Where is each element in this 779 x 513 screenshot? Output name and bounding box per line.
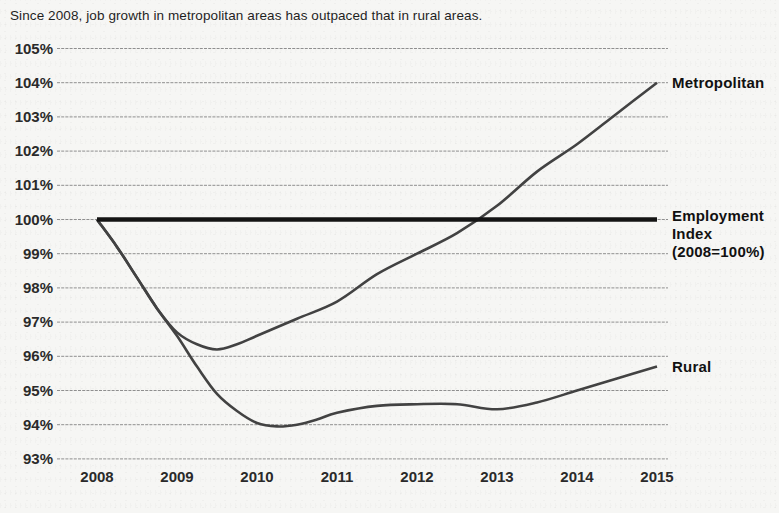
y-axis-tick-label: 102% [15,142,53,159]
series-label: Index [672,225,713,242]
y-axis-tick-label: 101% [15,176,53,193]
y-axis-tick-label: 100% [15,211,53,228]
series-label: Metropolitan [672,74,764,91]
y-axis-tick-label: 97% [23,313,53,330]
y-axis-tick-label: 105% [15,40,53,57]
y-axis-tick-label: 99% [23,245,53,262]
line-chart: 105%104%103%102%101%100%99%98%97%96%95%9… [0,0,779,513]
y-axis-tick-label: 103% [15,108,53,125]
x-axis-tick-label: 2014 [560,468,594,485]
y-axis-tick-label: 96% [23,347,53,364]
x-axis-tick-label: 2015 [640,468,673,485]
y-axis-tick-label: 98% [23,279,53,296]
series-label: Rural [672,358,711,375]
y-axis-tick-label: 95% [23,382,53,399]
series-label: (2008=100%) [672,243,765,260]
series-line-metropolitan [97,83,657,350]
x-axis-tick-label: 2012 [400,468,433,485]
x-axis-tick-label: 2009 [160,468,193,485]
x-axis-tick-label: 2013 [480,468,513,485]
x-axis-tick-label: 2008 [80,468,113,485]
series-line-rural [97,220,657,427]
x-axis-tick-label: 2011 [321,468,354,485]
x-axis-tick-label: 2010 [240,468,273,485]
y-axis-tick-label: 93% [23,450,53,467]
y-axis-tick-label: 94% [23,416,53,433]
series-label: Employment [672,207,764,224]
y-axis-tick-label: 104% [15,74,53,91]
